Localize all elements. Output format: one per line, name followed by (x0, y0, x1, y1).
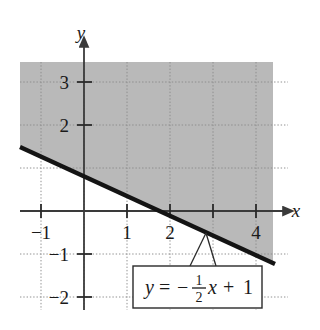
y-tick-label-neg1: −1 (49, 244, 69, 265)
fraction-denominator: 2 (196, 290, 203, 305)
equation-constant: 1 (243, 276, 253, 298)
y-tick-label-neg2: −2 (49, 287, 69, 308)
x-axis-label: x (291, 200, 301, 221)
equation-variable: x (207, 276, 217, 298)
coordinate-plane: −1 1 2 4 3 2 −1 −2 x y y = − 1 2 (0, 0, 320, 330)
equation-plus-sign: + (223, 276, 234, 298)
x-tick-label-2: 2 (165, 222, 175, 243)
y-tick-label-3: 3 (60, 72, 70, 93)
equation-equals-sign: = (159, 276, 170, 298)
fraction-numerator: 1 (196, 273, 203, 288)
equation-lhs: y (143, 276, 154, 299)
x-tick-label-1: 1 (122, 222, 132, 243)
equation-minus-sign: − (177, 276, 188, 298)
graph-figure: −1 1 2 4 3 2 −1 −2 x y y = − 1 2 (0, 0, 320, 330)
y-tick-label-2: 2 (60, 115, 70, 136)
y-axis-label: y (75, 22, 86, 43)
x-tick-label-4: 4 (251, 222, 261, 243)
x-tick-label-neg1: −1 (31, 222, 51, 243)
